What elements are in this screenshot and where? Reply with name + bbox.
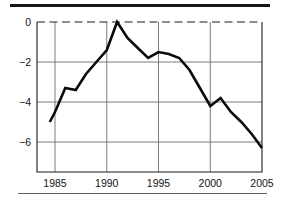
y-tick-label: −4 xyxy=(19,96,31,108)
y-tick-label: 0 xyxy=(25,16,31,28)
x-tick-label: 1995 xyxy=(147,177,171,189)
line-chart: 0−2−4−6 19851990199520002005 xyxy=(0,0,284,206)
plot-border xyxy=(37,22,262,172)
y-axis-labels: 0−2−4−6 xyxy=(19,16,31,148)
y-tick-label: −6 xyxy=(19,136,31,148)
data-line xyxy=(50,22,262,148)
y-tick-label: −2 xyxy=(19,56,31,68)
x-axis-labels: 19851990199520002005 xyxy=(43,177,274,189)
x-tick-label: 2005 xyxy=(250,177,274,189)
x-tick-label: 1985 xyxy=(43,177,67,189)
series-line xyxy=(50,22,262,148)
x-tick-label: 2000 xyxy=(199,177,223,189)
plot-frame xyxy=(37,22,262,172)
gridlines xyxy=(37,22,262,172)
chart-figure: 0−2−4−6 19851990199520002005 xyxy=(0,0,284,206)
bottom-rule xyxy=(18,193,267,194)
x-tick-label: 1990 xyxy=(95,177,119,189)
